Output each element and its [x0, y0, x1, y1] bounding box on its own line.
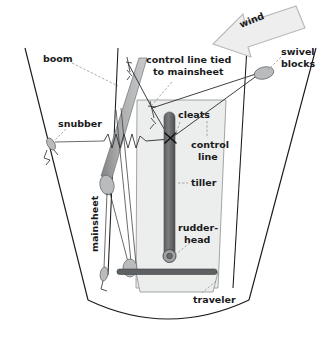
cleats-label: cleats	[178, 109, 210, 120]
swivel-blocks-label: swivel blocks	[281, 46, 318, 69]
control-line-label: control line	[191, 139, 232, 162]
hull-starboard-side	[249, 48, 316, 300]
hull-port-side	[25, 48, 88, 300]
cockpit-floor-aft	[136, 272, 218, 292]
mainsheet-label: mainsheet	[89, 195, 100, 252]
cockpit-floor	[136, 100, 226, 288]
mainsheet-tail-fitting	[99, 267, 108, 291]
tiller-label: tiller	[191, 177, 217, 188]
rudder-head-fitting	[163, 250, 176, 263]
tiller-rigging-diagram: wind	[0, 0, 329, 351]
snubber-label: snubber	[58, 118, 102, 129]
traveler-label: traveler	[193, 294, 236, 305]
boom-label: boom	[43, 53, 73, 64]
gunwale-starboard	[233, 47, 247, 288]
leader-boom	[72, 63, 118, 86]
mainsheet-upper-block	[98, 174, 116, 196]
swivel-block	[253, 65, 275, 81]
traveler-track	[117, 269, 217, 275]
control-line-tied-label: control line tied to mainsheet	[146, 54, 235, 77]
leader-snubber	[55, 129, 66, 140]
